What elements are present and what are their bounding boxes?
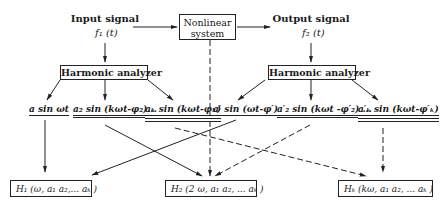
input-term-fundamental: a sin ωt — [29, 104, 69, 116]
system-line2: system — [180, 28, 235, 39]
input-term-kth-harmonic: aₖ sin (kωt-φₖ) — [145, 104, 221, 115]
system-line1: Nonlinear — [180, 17, 235, 28]
output-term-fundamental: a′ sin (ωt-φ′) — [213, 104, 278, 116]
harmonic-analyzer-right: Harmonic analyzer — [268, 65, 356, 80]
result-hk-box: Hₖ (kω, a₁ a₂, ... aₖ ) — [338, 180, 433, 197]
input-signal-symbol: f₁ (t) — [95, 27, 118, 38]
output-signal-symbol: f₂ (t) — [302, 27, 325, 38]
harmonic-analyzer-left: Harmonic analyzer — [60, 65, 148, 80]
output-term-kth-harmonic: a′ₖ sin (kωt-φ′ₖ) — [358, 104, 439, 115]
input-signal-label: Input signal — [70, 13, 140, 24]
nonlinear-system-box: Nonlinear system — [179, 14, 236, 40]
result-h1-box: H₁ (ω, a₁ a₂,... aₖ ) — [10, 180, 92, 197]
output-signal-label: Output signal — [272, 13, 350, 24]
result-h2-box: H₂ (2 ω, a₁ a₂, ... aₖ ) — [165, 180, 257, 197]
